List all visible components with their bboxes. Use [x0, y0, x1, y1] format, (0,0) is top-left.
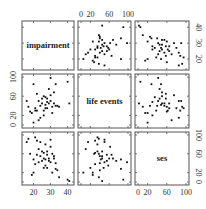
data-point	[45, 144, 47, 146]
data-point	[38, 100, 40, 102]
data-point	[147, 112, 149, 114]
data-point	[43, 158, 45, 160]
data-point	[48, 88, 50, 90]
data-point	[28, 106, 30, 108]
data-point	[159, 98, 161, 100]
data-point	[106, 45, 108, 47]
data-point	[99, 52, 101, 54]
tick-label: 20	[86, 10, 94, 19]
data-point	[112, 158, 114, 160]
data-point	[161, 95, 163, 97]
data-point	[159, 44, 161, 46]
data-point	[55, 105, 57, 107]
data-point	[90, 167, 92, 169]
data-point	[68, 103, 70, 105]
data-point	[94, 55, 96, 57]
data-point	[53, 103, 55, 105]
data-point	[161, 39, 163, 41]
data-point	[115, 160, 117, 162]
panel-frame	[78, 21, 131, 70]
tick-label: 20	[194, 169, 203, 177]
tick-label: 60	[105, 10, 113, 19]
data-point	[176, 47, 178, 49]
data-point	[85, 53, 87, 55]
data-point	[50, 94, 52, 96]
diag-label-impairment: impairment	[27, 40, 70, 50]
data-point	[181, 106, 183, 108]
data-point	[99, 155, 101, 157]
data-point	[144, 112, 146, 114]
data-point	[94, 49, 96, 51]
data-point	[166, 106, 168, 108]
scatterplot-matrix: 0206010020304002060100020601002030400206…	[0, 0, 206, 209]
data-point	[154, 96, 156, 98]
data-point	[164, 105, 166, 107]
data-point	[87, 52, 89, 54]
data-point	[45, 104, 47, 106]
data-point	[161, 103, 163, 105]
data-point	[36, 110, 38, 112]
data-point	[159, 88, 161, 90]
data-point	[173, 94, 175, 96]
data-point	[126, 42, 128, 44]
data-point	[178, 117, 180, 119]
data-point	[85, 148, 87, 150]
data-point	[50, 139, 52, 141]
data-point	[171, 119, 173, 121]
data-point	[43, 152, 45, 154]
data-point	[55, 162, 57, 164]
data-point	[166, 41, 168, 43]
data-point	[55, 168, 57, 170]
data-point	[94, 140, 96, 142]
data-point	[178, 100, 180, 102]
data-point	[179, 110, 181, 112]
data-point	[168, 50, 170, 52]
data-point	[100, 47, 102, 49]
data-point	[53, 91, 55, 93]
data-point	[31, 174, 33, 176]
data-point	[53, 155, 55, 157]
data-point	[33, 83, 35, 85]
data-point	[126, 161, 128, 163]
data-point	[50, 100, 52, 102]
data-point	[147, 122, 149, 124]
data-point	[68, 180, 70, 182]
data-point	[144, 60, 146, 62]
data-point	[159, 50, 161, 52]
data-point	[155, 110, 157, 112]
data-point	[120, 58, 122, 60]
tick-label: 40	[194, 23, 203, 31]
data-point	[179, 55, 181, 57]
data-point	[94, 163, 96, 165]
data-point	[181, 63, 183, 65]
data-point	[97, 144, 99, 146]
data-point	[56, 105, 58, 107]
panel-life-events-vs-impairment	[22, 74, 74, 128]
data-point	[43, 110, 45, 112]
data-point	[41, 103, 43, 105]
data-point	[98, 34, 100, 36]
data-point	[120, 168, 122, 170]
data-point	[152, 101, 154, 103]
data-point	[160, 83, 162, 85]
data-point	[38, 148, 40, 150]
data-point	[53, 158, 55, 160]
data-point	[140, 81, 142, 83]
data-point	[41, 98, 43, 100]
data-point	[99, 36, 101, 38]
data-point	[104, 139, 106, 141]
data-point	[87, 141, 89, 143]
data-point	[161, 49, 163, 51]
data-point	[155, 57, 157, 59]
data-point	[26, 100, 28, 102]
tick-label: 0	[194, 180, 203, 184]
data-point	[142, 34, 144, 36]
data-point	[152, 45, 154, 47]
data-point	[151, 37, 153, 39]
tick-label: 20	[9, 111, 18, 119]
data-point	[50, 161, 52, 163]
data-point	[99, 37, 101, 39]
data-point	[48, 103, 50, 105]
data-point	[46, 98, 48, 100]
data-point	[151, 83, 153, 85]
